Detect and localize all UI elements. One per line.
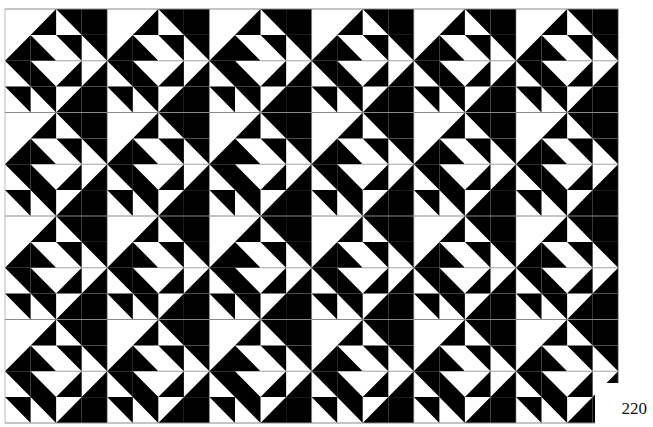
optical-pattern-grid <box>0 0 653 427</box>
page-number: 220 <box>622 399 648 419</box>
